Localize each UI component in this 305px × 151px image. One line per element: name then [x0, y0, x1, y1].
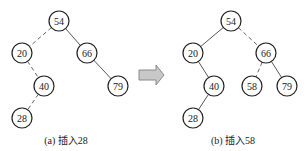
bst-insertion-diagram: 542066407928 (a) 插入28 54206640587928 (b)…: [0, 0, 305, 151]
edge-20-40: [198, 61, 208, 77]
tree-b: 54206640587928 (b) 插入58: [183, 11, 297, 147]
node-label: 54: [226, 16, 236, 27]
node-label: 20: [188, 48, 198, 59]
tree-a-nodes: 542066407928: [12, 11, 128, 128]
node-20: 20: [12, 43, 32, 63]
node-label: 79: [282, 81, 292, 92]
tree-a: 542066407928 (a) 插入28: [12, 11, 128, 147]
node-label: 20: [17, 48, 27, 59]
node-label: 66: [82, 48, 92, 59]
node-58: 58: [242, 76, 262, 96]
node-66: 66: [77, 43, 97, 63]
node-label: 54: [54, 16, 64, 27]
edge-20-40: [28, 61, 39, 77]
tree-a-edges: [28, 28, 112, 110]
right-arrow-icon: [139, 65, 164, 85]
node-label: 66: [261, 48, 271, 59]
caption-b: (b) 插入58: [211, 134, 255, 147]
node-40: 40: [204, 76, 224, 96]
node-54: 54: [49, 11, 69, 31]
node-label: 79: [113, 81, 123, 92]
edge-40-28: [198, 94, 208, 109]
node-20: 20: [183, 43, 203, 63]
edge-66-79: [271, 61, 281, 77]
edge-66-79: [94, 60, 111, 78]
tree-b-nodes: 54206640587928: [183, 11, 297, 128]
tree-b-edges: [198, 27, 281, 109]
node-label: 28: [188, 113, 198, 124]
edge-40-28: [28, 94, 39, 110]
node-label: 40: [209, 81, 219, 92]
node-28: 28: [12, 108, 32, 128]
node-79: 79: [277, 76, 297, 96]
node-label: 28: [17, 113, 27, 124]
caption-a: (a) 插入28: [44, 134, 88, 147]
node-label: 58: [247, 81, 257, 92]
node-28: 28: [183, 108, 203, 128]
edge-66-58: [256, 62, 262, 77]
edge-54-20: [201, 27, 224, 46]
node-40: 40: [34, 76, 54, 96]
node-label: 40: [39, 81, 49, 92]
edge-54-66: [66, 29, 81, 46]
edge-54-20: [30, 28, 52, 47]
edge-54-66: [238, 28, 258, 47]
node-54: 54: [221, 11, 241, 31]
node-66: 66: [256, 43, 276, 63]
node-79: 79: [108, 76, 128, 96]
